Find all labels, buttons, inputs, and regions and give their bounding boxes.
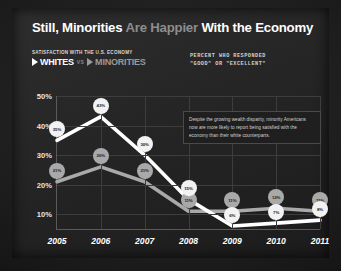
headline-part-3: With the Economy xyxy=(201,20,313,35)
y-axis-tick-label: 20% xyxy=(37,180,52,189)
annotation-text: Despite the growing wealth disparity, mi… xyxy=(189,117,306,138)
data-point-label: 15% xyxy=(181,180,197,196)
legend-kicker: SATISFACTION WITH THE U.S. ECONOMY xyxy=(32,50,182,55)
chart-legend: SATISFACTION WITH THE U.S. ECONOMY WHITE… xyxy=(32,50,182,67)
data-point-label: 6% xyxy=(224,207,240,223)
infographic-slide: Still, Minorities Are Happier With the E… xyxy=(0,0,341,271)
page-title: Still, Minorities Are Happier With the E… xyxy=(32,20,317,35)
data-point-label: 26% xyxy=(93,148,109,164)
data-point-marker: 12% xyxy=(268,189,284,205)
data-point-label: 35% xyxy=(49,121,65,137)
y-axis-tick-label: 50% xyxy=(37,92,52,101)
data-point-marker: 7% xyxy=(268,204,284,220)
data-point-marker: 15% xyxy=(181,180,197,196)
data-point-marker: 35% xyxy=(49,121,65,137)
data-point-marker: 21% xyxy=(137,163,153,179)
x-axis-tick-label: 2006 xyxy=(91,236,110,246)
x-axis-tick-label: 2007 xyxy=(135,236,154,246)
data-point-marker: 21% xyxy=(49,163,65,179)
chart-panel: Still, Minorities Are Happier With the E… xyxy=(12,8,329,258)
data-point-label: 11% xyxy=(224,192,240,208)
y-axis-tick-label: 10% xyxy=(37,210,52,219)
legend-item-minorities: MINORITIES xyxy=(87,57,146,67)
data-point-label: 43% xyxy=(93,98,109,114)
annotation-callout: Despite the growing wealth disparity, mi… xyxy=(183,111,321,144)
data-point-label: 12% xyxy=(268,189,284,205)
data-point-marker: 11% xyxy=(224,192,240,208)
data-point-label: 30% xyxy=(137,136,153,152)
legend-label-minorities: MINORITIES xyxy=(95,57,146,67)
x-axis-tick-label: 2010 xyxy=(267,236,286,246)
data-point-marker: 30% xyxy=(137,136,153,152)
headline-part-1: Still, Minorities xyxy=(32,20,125,35)
x-axis-tick-label: 2009 xyxy=(223,236,242,246)
data-point-label: 8% xyxy=(312,201,328,217)
legend-vs-label: VS xyxy=(77,59,84,65)
data-point-marker: 43% xyxy=(93,98,109,114)
legend-label-whites: WHITES xyxy=(40,57,74,67)
data-point-label: 21% xyxy=(49,163,65,179)
measure-note-line-1: PERCENT WHO RESPONDED xyxy=(190,52,320,60)
headline-part-2: Are Happier xyxy=(125,20,201,35)
legend-item-whites: WHITES xyxy=(32,57,74,67)
minorities-swatch-icon xyxy=(87,58,93,66)
legend-keys: WHITES VS MINORITIES xyxy=(32,57,182,67)
y-axis-tick-label: 30% xyxy=(37,151,52,160)
x-axis-tick-label: 2008 xyxy=(179,236,198,246)
measure-note-line-2: "GOOD" OR "EXCELLENT" xyxy=(190,60,320,68)
measure-note: PERCENT WHO RESPONDED "GOOD" OR "EXCELLE… xyxy=(190,52,320,68)
x-axis-tick-label: 2005 xyxy=(47,236,66,246)
data-point-marker: 8% xyxy=(312,201,328,217)
x-axis-tick-label: 2011 xyxy=(311,236,329,246)
data-point-label: 21% xyxy=(137,163,153,179)
whites-swatch-icon xyxy=(32,58,38,66)
data-point-marker: 26% xyxy=(93,148,109,164)
data-point-marker: 6% xyxy=(224,207,240,223)
data-point-label: 7% xyxy=(268,204,284,220)
